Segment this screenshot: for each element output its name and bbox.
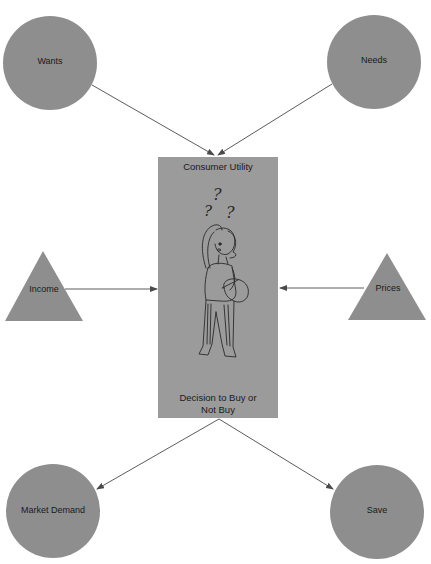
income-label: Income: [14, 284, 74, 295]
prices-label: Prices: [358, 283, 418, 294]
diagram-canvas: ? ? ?: [0, 0, 431, 564]
decision-label-line1: Decision to Buy or: [158, 392, 278, 404]
svg-text:?: ?: [213, 185, 222, 204]
edge-needs-to-utility: [218, 84, 332, 155]
decision-label-line2: Not Buy: [158, 404, 278, 416]
svg-text:?: ?: [226, 203, 235, 222]
market-demand-label: Market Demand: [8, 505, 98, 516]
edge-wants-to-utility: [92, 85, 214, 155]
edge-decision-to-save: [219, 419, 333, 489]
consumer-utility-title: Consumer Utility: [158, 161, 278, 173]
wants-label: Wants: [20, 56, 80, 67]
edge-decision-to-market-demand: [97, 419, 219, 489]
needs-label: Needs: [344, 55, 404, 66]
save-label: Save: [347, 505, 407, 516]
svg-text:?: ?: [204, 202, 213, 220]
